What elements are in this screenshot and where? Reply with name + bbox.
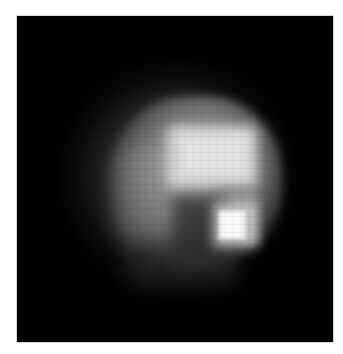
pixel-grid-overlay — [17, 16, 333, 342]
hot-spot-halo — [213, 202, 258, 247]
right-column — [217, 186, 257, 241]
lower-fade — [127, 241, 237, 286]
image-frame — [16, 15, 334, 343]
hot-spot — [219, 211, 245, 239]
inner-glow — [112, 96, 282, 266]
bright-patch-core — [182, 136, 247, 176]
dark-notch — [172, 196, 227, 266]
left-lobe — [117, 146, 187, 246]
outer-glow — [57, 56, 297, 296]
bright-patch — [167, 126, 257, 188]
